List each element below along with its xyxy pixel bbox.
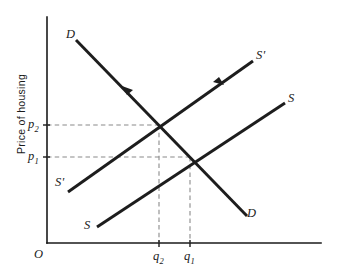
y-tick-label-p1: p1: [28, 150, 39, 165]
y-tick-label-p1-sub: 1: [34, 156, 38, 166]
y-axis-title: Price of housing: [15, 54, 27, 174]
y-tick-label-p2: p2: [28, 118, 39, 133]
supply-curve-label-top: S: [288, 92, 294, 105]
supply-curve-label-bottom: S: [84, 219, 90, 232]
supply-shifted-curve: [68, 61, 253, 192]
supply-shifted-label-bottom: S': [55, 176, 64, 189]
demand-curve-label-bottom: D: [247, 207, 256, 220]
origin-label: O: [34, 248, 43, 261]
y-tick-label-p2-sub: 2: [34, 124, 38, 134]
demand-curve: [76, 40, 247, 216]
supply-curve: [97, 103, 285, 227]
x-tick-label-q1-sub: 1: [190, 256, 194, 266]
supply-shifted-label-top: S': [256, 49, 265, 62]
x-tick-label-q2: q2: [153, 250, 164, 265]
x-tick-label-q2-sub: 2: [159, 256, 163, 266]
demand-curve-label-top: D: [66, 28, 75, 41]
plot-canvas: [0, 0, 348, 277]
x-tick-label-q1: q1: [184, 250, 195, 265]
supply-demand-figure: Price of housing O p2 p1 q2 q1 D D S' S'…: [0, 0, 348, 277]
